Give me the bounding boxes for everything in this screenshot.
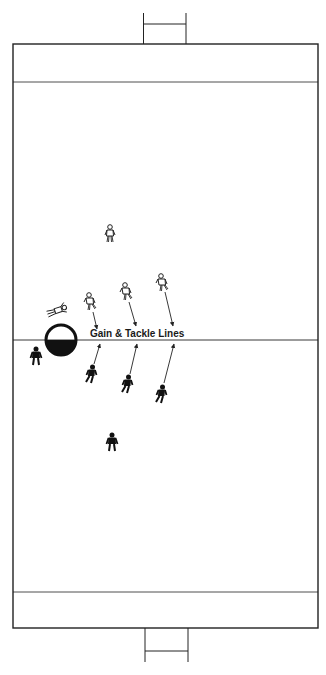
lying-player-icon (46, 302, 68, 318)
attacker-standing-icon (105, 225, 115, 242)
attacker-arrow-icon (129, 302, 136, 326)
defender-standing-icon (31, 347, 42, 366)
defender-running-icon (86, 365, 97, 384)
attacker-running-icon (120, 283, 132, 300)
attacker-arrow-icon (165, 292, 173, 326)
attacker-running-icon (156, 274, 168, 291)
attacker-running-icon (84, 293, 96, 310)
gain-tackle-lines-diagram: Gain & Tackle Lines (0, 0, 326, 675)
defender-arrow-icon (94, 344, 100, 364)
attacker-arrow-icon (93, 312, 97, 329)
defender-standing-icon (107, 433, 118, 452)
defender-running-icon (122, 375, 133, 394)
defender-arrow-icon (130, 344, 137, 374)
defender-running-icon (156, 385, 167, 404)
defender-players (31, 347, 167, 452)
attacker-players (84, 225, 168, 310)
drill-label: Gain & Tackle Lines (90, 328, 185, 339)
defender-arrow-icon (164, 344, 174, 383)
bottom-goal-posts (145, 628, 188, 662)
top-goal-posts (144, 13, 187, 44)
ball-marker-icon (45, 325, 77, 356)
